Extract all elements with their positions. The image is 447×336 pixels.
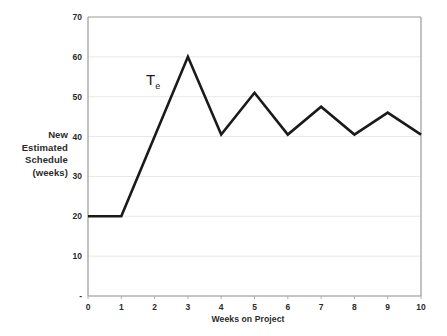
x-tick-label: 2	[140, 302, 170, 312]
x-tick-label: 5	[240, 302, 270, 312]
x-tick-label: 6	[273, 302, 303, 312]
chart-container: New Estimated Schedule (weeks) 706050403…	[0, 0, 447, 336]
x-tick-label: 1	[106, 302, 136, 312]
x-tick-label: 3	[173, 302, 203, 312]
x-tick-label: 10	[406, 302, 436, 312]
x-axis-title: Weeks on Project	[88, 314, 408, 324]
x-tick-label: 8	[339, 302, 369, 312]
x-tick-label: 0	[73, 302, 103, 312]
x-tick-label: 7	[306, 302, 336, 312]
x-tick-label: 4	[206, 302, 236, 312]
x-tick-label: 9	[373, 302, 403, 312]
x-axis-tick-labels: 012345678910	[0, 0, 447, 336]
